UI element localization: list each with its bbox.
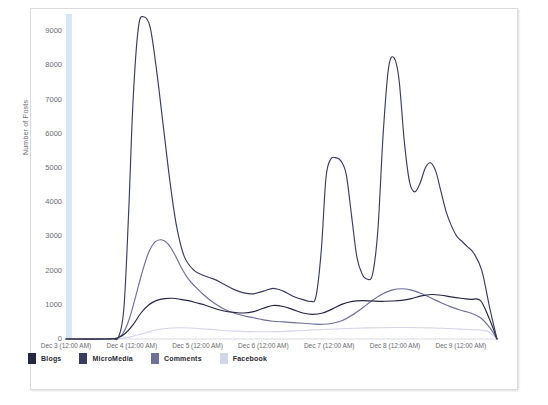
legend-label: Blogs xyxy=(41,355,61,362)
series-line-blogs xyxy=(66,295,497,340)
highlight-band xyxy=(66,14,72,339)
legend-swatch-blogs xyxy=(28,353,36,364)
legend-swatch-micromedia xyxy=(79,353,87,364)
legend-item-facebook[interactable]: Facebook xyxy=(220,353,267,364)
y-tick-6000: 6000 xyxy=(45,130,62,138)
x-tick-1: Dec 4 (12:00 AM) xyxy=(107,342,158,349)
x-tick-0: Dec 3 (12:00 AM) xyxy=(41,342,92,349)
chart-area: Number of Posts 010002000300040005000600… xyxy=(0,0,548,405)
y-tick-4000: 4000 xyxy=(45,198,62,206)
chart-legend: BlogsMicroMediaCommentsFacebook xyxy=(28,353,285,364)
y-tick-2000: 2000 xyxy=(45,267,62,275)
legend-label: Comments xyxy=(164,355,202,362)
legend-swatch-facebook xyxy=(220,353,228,364)
legend-swatch-comments xyxy=(151,353,159,364)
x-tick-2: Dec 5 (12:00 AM) xyxy=(172,342,223,349)
legend-item-blogs[interactable]: Blogs xyxy=(28,353,61,364)
legend-label: Facebook xyxy=(233,355,267,362)
series-line-micromedia xyxy=(66,16,497,339)
y-tick-5000: 5000 xyxy=(45,164,62,172)
y-tick-1000: 1000 xyxy=(45,301,62,309)
y-tick-7000: 7000 xyxy=(45,96,62,104)
legend-item-comments[interactable]: Comments xyxy=(151,353,202,364)
legend-item-micromedia[interactable]: MicroMedia xyxy=(79,353,133,364)
y-tick-3000: 3000 xyxy=(45,232,62,240)
y-tick-8000: 8000 xyxy=(45,61,62,69)
x-tick-4: Dec 7 (12:00 AM) xyxy=(304,342,355,349)
x-tick-5: Dec 8 (12:00 AM) xyxy=(370,342,421,349)
y-tick-9000: 9000 xyxy=(45,27,62,35)
x-tick-6: Dec 9 (12:00 AM) xyxy=(436,342,487,349)
series-line-comments xyxy=(66,240,497,339)
x-tick-3: Dec 6 (12:00 AM) xyxy=(238,342,289,349)
legend-label: MicroMedia xyxy=(92,355,133,362)
series-line-facebook xyxy=(66,328,497,340)
